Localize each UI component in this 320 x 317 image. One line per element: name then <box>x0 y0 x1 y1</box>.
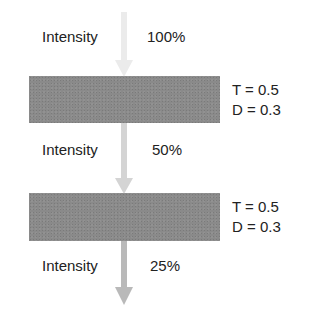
intensity-value-1: 100% <box>147 28 185 46</box>
arrow-3 <box>115 241 133 305</box>
filter-2-density: D = 0.3 <box>232 217 281 237</box>
intensity-label-2: Intensity <box>42 141 98 159</box>
intensity-label-1: Intensity <box>42 28 98 46</box>
intensity-label-3: Intensity <box>42 257 98 275</box>
intensity-value-3: 25% <box>150 257 180 275</box>
arrow-1 <box>115 12 133 77</box>
intensity-value-2: 50% <box>152 141 182 159</box>
filter-layer-1 <box>29 76 220 123</box>
filter-layer-2 <box>29 193 220 241</box>
filter-2-params: T = 0.5 D = 0.3 <box>232 197 281 237</box>
filter-2-transmission: T = 0.5 <box>232 197 281 217</box>
filter-1-transmission: T = 0.5 <box>232 80 281 100</box>
arrow-2 <box>115 123 133 194</box>
filter-1-params: T = 0.5 D = 0.3 <box>232 80 281 120</box>
filter-1-density: D = 0.3 <box>232 100 281 120</box>
